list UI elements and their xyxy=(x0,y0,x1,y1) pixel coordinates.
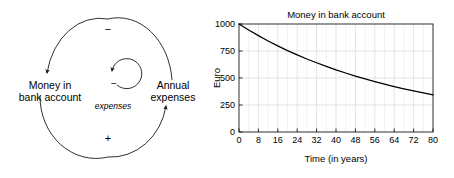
x-tick-label: 8 xyxy=(256,135,261,145)
y-tick-label: 1000 xyxy=(215,19,235,29)
y-tick-label: 0 xyxy=(230,127,235,137)
x-tick-label: 40 xyxy=(331,135,341,145)
node-label-money-line2: bank account xyxy=(6,92,94,104)
x-tick-label: 0 xyxy=(236,135,241,145)
y-tick-label: 500 xyxy=(220,73,235,83)
figure-container: − + − Money in bank account Annual expen… xyxy=(0,0,454,178)
node-label-money-in-bank-account: Money in bank account xyxy=(6,80,94,103)
node-label-annual-expenses: Annual expenses xyxy=(136,80,210,103)
x-tick-label: 24 xyxy=(292,135,302,145)
node-label-annual-line2: expenses xyxy=(136,92,210,104)
arc-top-left xyxy=(47,18,108,73)
sign-positive-bottom: + xyxy=(101,133,115,144)
causal-loop-diagram: − + − Money in bank account Annual expen… xyxy=(0,0,212,178)
y-tick-label: 250 xyxy=(220,100,235,110)
chart-title: Money in bank account xyxy=(287,9,385,20)
y-tick-label: 750 xyxy=(220,46,235,56)
x-tick-label: 16 xyxy=(273,135,283,145)
node-label-money-line1: Money in xyxy=(6,80,94,92)
y-axis-label: Euro xyxy=(212,68,222,88)
arc-bottom-right xyxy=(108,106,166,157)
money-in-bank-account-chart: 08162432404856647280 02505007501000 Mone… xyxy=(212,0,454,178)
sign-negative-top: − xyxy=(101,24,115,35)
x-tick-label: 64 xyxy=(389,135,399,145)
x-tick-label: 56 xyxy=(370,135,380,145)
node-label-annual-line1: Annual xyxy=(136,80,210,92)
sign-negative-inner: − xyxy=(107,78,121,89)
arc-top-right xyxy=(108,18,172,80)
x-tick-label: 72 xyxy=(409,135,419,145)
x-tick-label: 48 xyxy=(350,135,360,145)
node-label-expenses: expenses xyxy=(82,101,144,113)
x-tick-label: 32 xyxy=(312,135,322,145)
chart-panel: 08162432404856647280 02505007501000 Mone… xyxy=(212,0,454,178)
x-tick-label: 80 xyxy=(428,135,438,145)
x-axis-label: Time (in years) xyxy=(305,153,368,164)
